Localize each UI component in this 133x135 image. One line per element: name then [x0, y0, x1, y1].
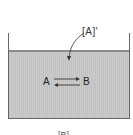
arrows-layer — [0, 0, 133, 135]
species-b-label: B — [83, 76, 90, 87]
species-a-label: A — [43, 76, 50, 87]
pointer-arrowhead-icon — [67, 56, 71, 61]
pointer-arrow-icon — [69, 33, 84, 58]
bottom-concentration-label: [B] — [58, 130, 69, 135]
